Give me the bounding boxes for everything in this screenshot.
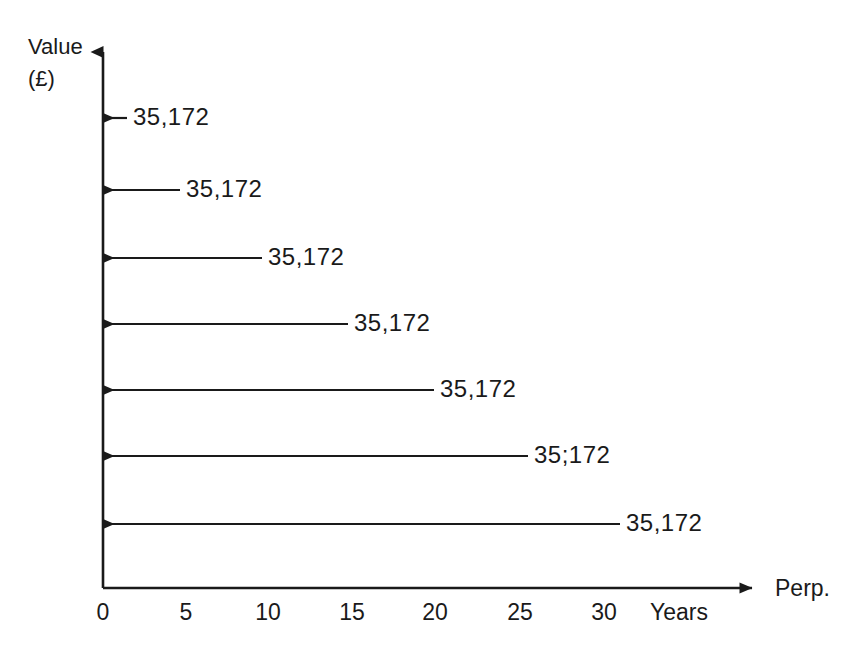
x-axis-unit-label: Years	[650, 601, 708, 624]
cash-flow-value-label: 35,172	[186, 177, 262, 201]
x-axis-tick-label: 20	[415, 601, 455, 624]
cash-flow-value-label: 35;172	[534, 443, 610, 467]
cash-flow-value-label: 35,172	[440, 377, 516, 401]
cash-flow-value-label: 35,172	[268, 245, 344, 269]
x-axis-tick-label: 5	[166, 601, 206, 624]
cash-flow-value-label: 35,172	[133, 105, 209, 129]
y-axis-title-line1: Value	[28, 36, 83, 58]
perpetuity-cash-flow-diagram: Value (£) Years Perp. 051015202530 35,17…	[0, 0, 857, 655]
x-axis-tick-label: 15	[332, 601, 372, 624]
y-axis-title-line2: (£)	[28, 68, 55, 90]
x-axis-tick-label: 0	[83, 601, 123, 624]
cash-flow-value-label: 35,172	[354, 311, 430, 335]
x-axis-tick-label: 10	[248, 601, 288, 624]
cash-flow-value-label: 35,172	[626, 511, 702, 535]
x-axis-tick-label: 30	[584, 601, 624, 624]
x-axis-tick-label: 25	[500, 601, 540, 624]
x-axis-perpetuity-label: Perp.	[775, 577, 830, 600]
